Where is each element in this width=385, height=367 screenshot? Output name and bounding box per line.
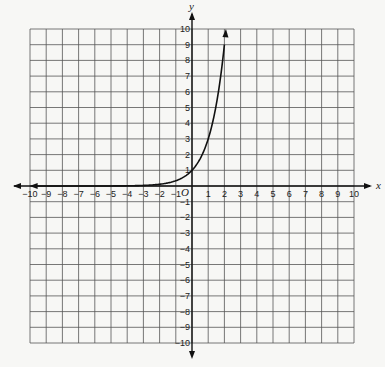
x-tick-label: −9 <box>41 189 51 199</box>
x-axis-arrow-left-icon <box>13 183 21 189</box>
y-tick-label: −5 <box>180 260 190 270</box>
y-axis-arrow-up-icon <box>189 12 195 20</box>
x-axis-label: x <box>375 179 381 191</box>
x-tick-label: −8 <box>57 189 67 199</box>
x-tick-label: 4 <box>254 189 259 199</box>
x-tick-label: 2 <box>222 189 227 199</box>
x-tick-label: 10 <box>349 189 359 199</box>
x-tick-label: −5 <box>106 189 116 199</box>
y-tick-label: −4 <box>180 244 190 254</box>
coordinate-plane: xyO−10−9−8−7−6−5−4−3−2−11234567891010987… <box>0 0 385 367</box>
y-tick-label: −8 <box>180 307 190 317</box>
y-tick-label: 9 <box>185 40 190 50</box>
x-tick-label: −2 <box>154 189 164 199</box>
y-axis-label: y <box>188 0 194 12</box>
y-tick-label: −2 <box>180 212 190 222</box>
x-tick-label: −7 <box>73 189 83 199</box>
y-tick-label: −1 <box>180 197 190 207</box>
x-tick-label: −3 <box>138 189 148 199</box>
x-tick-label: −10 <box>22 189 37 199</box>
x-tick-label: −6 <box>90 189 100 199</box>
x-tick-label: −4 <box>122 189 132 199</box>
y-tick-label: 5 <box>185 103 190 113</box>
x-tick-label: 1 <box>206 189 211 199</box>
y-tick-label: 2 <box>185 150 190 160</box>
y-tick-label: −6 <box>180 275 190 285</box>
y-tick-label: 7 <box>185 71 190 81</box>
y-tick-label: −3 <box>180 228 190 238</box>
x-tick-label: 6 <box>287 189 292 199</box>
y-tick-label: −10 <box>175 338 190 348</box>
curve-arrow-up-icon <box>222 29 228 38</box>
y-tick-label: 6 <box>185 87 190 97</box>
x-tick-label: 7 <box>303 189 308 199</box>
y-axis-arrow-down-icon <box>189 351 195 359</box>
y-tick-label: −7 <box>180 291 190 301</box>
x-axis-arrow-right-icon <box>364 183 372 189</box>
y-tick-label: 3 <box>185 134 190 144</box>
x-tick-label: 3 <box>238 189 243 199</box>
y-tick-label: 10 <box>180 24 190 34</box>
y-tick-label: 8 <box>185 55 190 65</box>
x-tick-label: 8 <box>319 189 324 199</box>
y-tick-label: −9 <box>180 322 190 332</box>
x-tick-label: 5 <box>270 189 275 199</box>
y-tick-label: 4 <box>185 118 190 128</box>
exponential-curve <box>35 45 225 186</box>
x-tick-label: 9 <box>335 189 340 199</box>
